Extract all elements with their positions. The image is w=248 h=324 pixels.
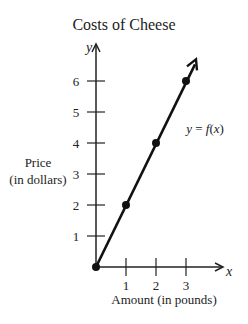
x-tick-label: 2: [153, 278, 160, 293]
y-tick-label: 2: [73, 198, 80, 213]
data-point: [182, 77, 190, 85]
series-label: y = f(x): [184, 121, 224, 136]
data-point: [92, 263, 100, 271]
y-tick-label: 4: [73, 136, 80, 151]
data-point: [152, 139, 160, 147]
x-tick-label: 1: [123, 278, 130, 293]
y-tick-label: 5: [73, 105, 80, 120]
x-axis-letter: x: [225, 264, 233, 279]
y-tick-label: 6: [73, 74, 80, 89]
series-line: [96, 64, 195, 267]
data-point: [122, 201, 130, 209]
x-tick-label: 3: [183, 278, 190, 293]
y-tick-label: 3: [73, 167, 80, 182]
y-axis-letter: y: [84, 40, 93, 55]
chart-plot: yx123456123y = f(x): [0, 0, 248, 324]
y-tick-label: 1: [73, 229, 80, 244]
